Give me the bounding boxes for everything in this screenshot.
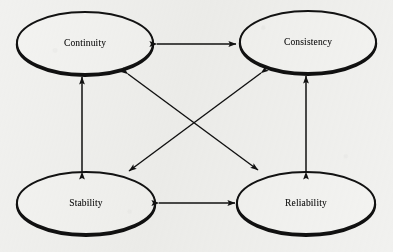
node-label-continuity: Continuity	[64, 38, 106, 48]
diagram-svg	[0, 0, 393, 252]
edge-consistency-stability[interactable]	[129, 73, 261, 171]
node-label-reliability: Reliability	[285, 198, 327, 208]
edge-continuity-reliability[interactable]	[128, 74, 258, 170]
node-label-consistency: Consistency	[284, 37, 332, 47]
diagram-canvas: Continuity Consistency Stability Reliabi…	[0, 0, 393, 252]
node-label-stability: Stability	[69, 198, 103, 208]
